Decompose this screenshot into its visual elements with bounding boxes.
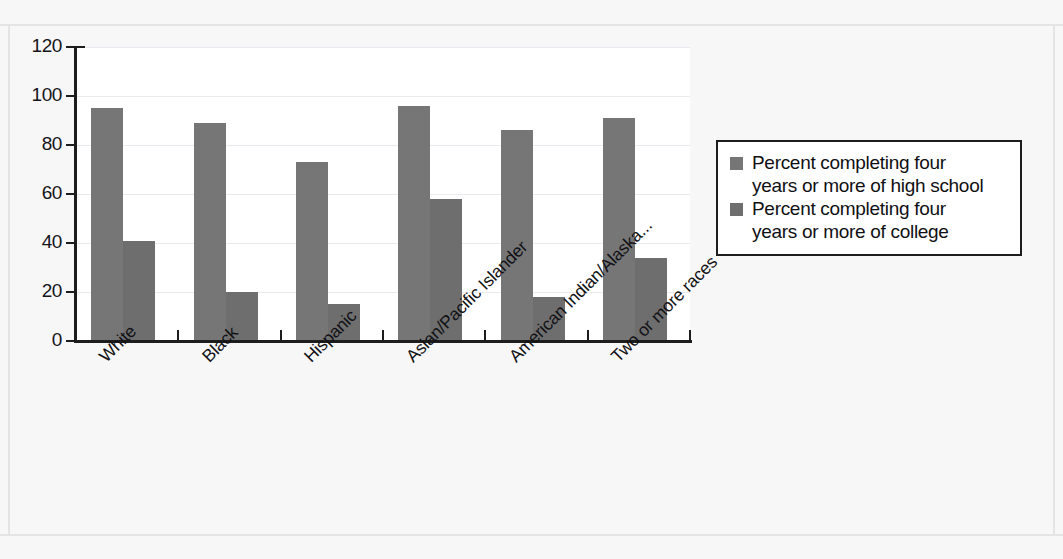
y-tick-label-0: 0 — [52, 329, 62, 351]
chart-figure: 020406080100120 WhiteBlackHispanicAsian/… — [0, 0, 1063, 559]
legend-item-2[interactable]: Percent completing fouryears or more of … — [730, 197, 1010, 243]
plot-area — [76, 47, 690, 341]
bar-series1-asian-pacific-islander — [398, 106, 430, 341]
y-tick-label-20: 20 — [42, 280, 62, 302]
bar-series1-white — [91, 108, 123, 341]
y-tick-labels: 020406080100120 — [0, 0, 62, 559]
gridline-20 — [76, 292, 690, 293]
y-tick-label-100: 100 — [31, 84, 62, 106]
y-tick-mark-60 — [66, 193, 75, 195]
legend-label-2: Percent completing fouryears or more of … — [752, 197, 949, 243]
gridline-100 — [76, 96, 690, 97]
y-tick-label-120: 120 — [31, 35, 62, 57]
figure-frame-right — [1053, 24, 1055, 536]
chart-legend: Percent completing fouryears or more of … — [716, 140, 1022, 256]
y-tick-mark-120 — [66, 46, 75, 48]
y-tick-label-60: 60 — [42, 182, 62, 204]
x-tick-mark-6 — [689, 330, 691, 341]
y-tick-mark-80 — [66, 144, 75, 146]
x-tick-mark-4 — [484, 330, 486, 341]
x-tick-mark-3 — [382, 330, 384, 341]
bar-series1-black — [194, 123, 226, 341]
y-tick-mark-0 — [66, 340, 75, 342]
legend-item-1[interactable]: Percent completing fouryears or more of … — [730, 151, 1010, 197]
y-tick-label-40: 40 — [42, 231, 62, 253]
bar-series1-hispanic — [296, 162, 328, 341]
gridline-60 — [76, 194, 690, 195]
figure-frame-bottom — [0, 534, 1063, 536]
y-tick-label-80: 80 — [42, 133, 62, 155]
x-tick-mark-5 — [587, 330, 589, 341]
y-tick-mark-40 — [66, 242, 75, 244]
gridline-120 — [76, 47, 690, 48]
x-tick-mark-2 — [280, 330, 282, 341]
legend-swatch-icon-2 — [730, 203, 743, 216]
gridline-80 — [76, 145, 690, 146]
figure-frame-top — [0, 24, 1063, 26]
gridline-40 — [76, 243, 690, 244]
legend-label-1: Percent completing fouryears or more of … — [752, 151, 983, 197]
x-tick-mark-1 — [177, 330, 179, 341]
y-axis-top-cap — [74, 46, 85, 48]
y-tick-mark-100 — [66, 95, 75, 97]
legend-swatch-icon-1 — [730, 157, 743, 170]
y-tick-mark-20 — [66, 291, 75, 293]
